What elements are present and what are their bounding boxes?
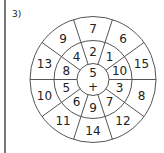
outer-ring-number: 8 <box>138 89 146 103</box>
center-operator: + <box>88 80 98 94</box>
inner-ring-number: 4 <box>73 50 81 64</box>
inner-ring-number: 10 <box>112 64 127 78</box>
number-wheel-diagram: 101248569731567913101114128 5 + <box>0 0 164 153</box>
center-number: 5 <box>89 66 97 80</box>
inner-ring-number: 9 <box>89 101 97 115</box>
outer-ring-number: 13 <box>37 57 52 71</box>
outer-ring-number: 11 <box>55 114 70 128</box>
inner-ring-number: 2 <box>89 45 97 59</box>
outer-ring-number: 12 <box>115 114 130 128</box>
inner-ring-number: 1 <box>106 50 114 64</box>
inner-ring-number: 6 <box>73 95 81 109</box>
outer-ring-number: 15 <box>134 57 149 71</box>
outer-ring-number: 6 <box>119 32 127 46</box>
outer-ring-number: 10 <box>37 89 52 103</box>
outer-ring-number: 9 <box>59 32 67 46</box>
inner-ring-number: 7 <box>106 95 114 109</box>
outer-ring-number: 14 <box>85 124 100 138</box>
inner-ring-number: 5 <box>63 81 71 95</box>
inner-ring-number: 8 <box>63 64 71 78</box>
inner-ring-number: 3 <box>116 81 124 95</box>
outer-ring-number: 7 <box>89 22 97 36</box>
